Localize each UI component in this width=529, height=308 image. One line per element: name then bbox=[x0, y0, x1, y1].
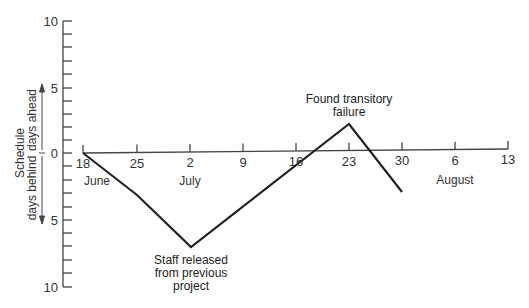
x-tick-label: 2 bbox=[186, 155, 193, 170]
annotation-transitory-failure: Found transitory failure bbox=[306, 92, 393, 119]
svg-text:from previous: from previous bbox=[155, 266, 228, 280]
y-axis-label: Schedule days ahead days behind bbox=[13, 84, 45, 224]
x-tick-label: 13 bbox=[501, 152, 515, 167]
y-axis-up-label: days ahead bbox=[25, 89, 39, 151]
y-tick-labels: 10 5 0 5 10 bbox=[44, 14, 58, 295]
month-labels: June July August bbox=[84, 173, 474, 188]
x-tick-label: 23 bbox=[342, 154, 356, 169]
y-tick-label: 5 bbox=[51, 81, 58, 96]
x-tick-label: 9 bbox=[239, 155, 246, 170]
y-tick-label: 0 bbox=[51, 146, 58, 161]
y-tick-label: 5 bbox=[51, 213, 58, 228]
month-label-june: June bbox=[84, 174, 110, 188]
annotation-staff-released: Staff released from previous project bbox=[154, 253, 228, 293]
x-tick-labels: 18 25 2 9 16 23 30 6 13 bbox=[76, 152, 515, 171]
svg-text:project: project bbox=[173, 279, 210, 293]
y-tick-label: 10 bbox=[44, 14, 58, 29]
y-axis bbox=[63, 21, 72, 287]
month-label-july: July bbox=[179, 174, 200, 188]
x-axis bbox=[83, 141, 508, 153]
svg-text:Found transitory: Found transitory bbox=[306, 92, 393, 106]
schedule-chart: 10 5 0 5 10 Schedule days ahead days beh… bbox=[0, 0, 529, 308]
x-tick-label: 6 bbox=[451, 153, 458, 168]
schedule-deviation-line bbox=[83, 124, 402, 247]
svg-text:failure: failure bbox=[333, 105, 366, 119]
svg-text:Staff released: Staff released bbox=[154, 253, 228, 267]
y-tick-label: 10 bbox=[44, 280, 58, 295]
x-tick-label: 25 bbox=[130, 156, 144, 171]
month-label-august: August bbox=[436, 173, 474, 187]
x-tick-label: 30 bbox=[395, 153, 409, 168]
y-axis-down-label: days behind bbox=[25, 156, 39, 221]
